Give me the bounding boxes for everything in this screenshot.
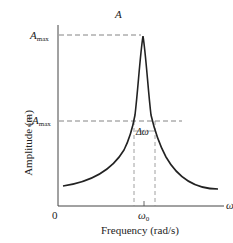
resonance-curve (63, 36, 218, 189)
x-axis-label: Frequency (rad/s) (101, 225, 179, 236)
y-axis-label: Amplitude (m) (22, 101, 34, 185)
chart-title: A (115, 9, 122, 20)
amax-symbol: A (30, 29, 37, 41)
omega-symbol: ω (138, 209, 146, 221)
omega0-tick-label: ω0 (138, 210, 149, 223)
half-amax-subscript: max (39, 120, 51, 128)
omega0-subscript: 0 (146, 215, 150, 223)
x-axis-symbol: ω (226, 200, 233, 211)
amax-subscript: max (37, 35, 49, 43)
origin-label: 0 (52, 210, 58, 221)
amax-tick-label: Amax (30, 30, 49, 43)
delta-omega-label: Δω (136, 127, 149, 137)
